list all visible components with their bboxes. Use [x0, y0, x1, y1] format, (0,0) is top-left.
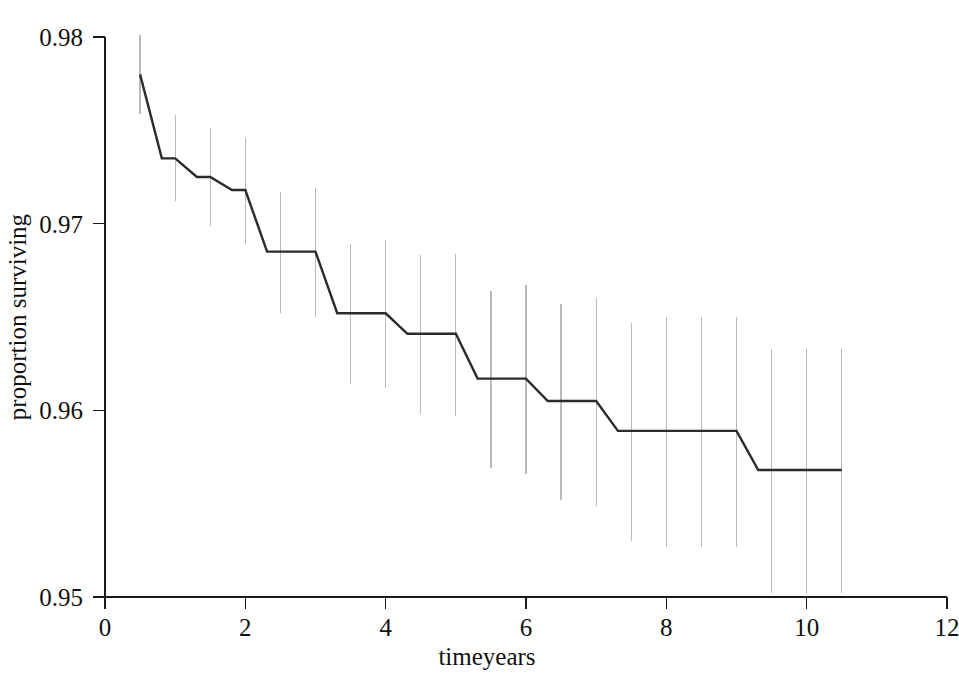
axes-group — [93, 37, 947, 609]
y-tick-label: 0.98 — [39, 24, 83, 51]
x-axis-tick-labels: 024681012 — [99, 614, 959, 641]
y-tick-label: 0.95 — [39, 584, 83, 611]
x-tick-label: 10 — [794, 614, 819, 641]
y-axis-tick-labels: 0.950.960.970.98 — [39, 24, 83, 611]
x-tick-label: 8 — [660, 614, 673, 641]
x-tick-label: 6 — [520, 614, 533, 641]
survival-chart: 0.950.960.970.98 024681012 timeyears pro… — [0, 0, 959, 674]
x-axis-label: timeyears — [438, 643, 535, 670]
x-tick-label: 12 — [935, 614, 959, 641]
error-bars-group — [140, 35, 842, 593]
chart-canvas: 0.950.960.970.98 024681012 timeyears pro… — [0, 0, 959, 674]
x-axis-ticks — [105, 597, 947, 609]
x-tick-label: 0 — [99, 614, 112, 641]
y-tick-label: 0.97 — [39, 211, 83, 238]
y-axis-label: proportion surviving — [4, 213, 31, 420]
y-axis-ticks — [93, 37, 105, 597]
y-tick-label: 0.96 — [39, 397, 83, 424]
x-tick-label: 4 — [379, 614, 392, 641]
x-tick-label: 2 — [239, 614, 252, 641]
